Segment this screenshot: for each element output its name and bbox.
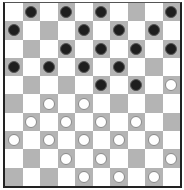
white-piece[interactable]	[130, 116, 142, 128]
board-square[interactable]	[163, 40, 181, 58]
black-piece[interactable]	[25, 6, 37, 18]
board-square[interactable]	[75, 3, 93, 21]
board-square[interactable]	[40, 113, 58, 131]
board-square[interactable]	[75, 113, 93, 131]
board-square[interactable]	[58, 149, 76, 167]
board-square[interactable]	[58, 40, 76, 58]
white-piece[interactable]	[95, 116, 107, 128]
board-square[interactable]	[23, 58, 41, 76]
board-square[interactable]	[128, 113, 146, 131]
board-square[interactable]	[23, 149, 41, 167]
black-piece[interactable]	[130, 79, 142, 91]
board-square[interactable]	[110, 40, 128, 58]
white-piece[interactable]	[165, 153, 177, 165]
board-square[interactable]	[58, 113, 76, 131]
black-piece[interactable]	[8, 61, 20, 73]
white-piece[interactable]	[148, 134, 160, 146]
white-piece[interactable]	[78, 98, 90, 110]
board-square[interactable]	[23, 76, 41, 94]
board-square[interactable]	[163, 113, 181, 131]
white-piece[interactable]	[43, 98, 55, 110]
black-piece[interactable]	[43, 61, 55, 73]
white-piece[interactable]	[165, 79, 177, 91]
board-square[interactable]	[145, 149, 163, 167]
black-piece[interactable]	[113, 61, 125, 73]
board-square[interactable]	[5, 168, 23, 186]
board-square[interactable]	[23, 3, 41, 21]
white-piece[interactable]	[43, 134, 55, 146]
board-square[interactable]	[128, 76, 146, 94]
white-piece[interactable]	[60, 153, 72, 165]
board-square[interactable]	[5, 113, 23, 131]
white-piece[interactable]	[95, 153, 107, 165]
white-piece[interactable]	[78, 134, 90, 146]
board-square[interactable]	[128, 58, 146, 76]
black-piece[interactable]	[113, 24, 125, 36]
board-square[interactable]	[93, 40, 111, 58]
board-square[interactable]	[23, 94, 41, 112]
board-square[interactable]	[110, 149, 128, 167]
board-square[interactable]	[40, 131, 58, 149]
board-square[interactable]	[58, 21, 76, 39]
board-square[interactable]	[75, 149, 93, 167]
board-square[interactable]	[40, 40, 58, 58]
board-square[interactable]	[145, 94, 163, 112]
board-square[interactable]	[110, 168, 128, 186]
board-square[interactable]	[23, 131, 41, 149]
board-square[interactable]	[5, 3, 23, 21]
board-square[interactable]	[93, 76, 111, 94]
white-piece[interactable]	[148, 171, 160, 183]
board-square[interactable]	[75, 131, 93, 149]
board-square[interactable]	[128, 3, 146, 21]
black-piece[interactable]	[78, 61, 90, 73]
board-square[interactable]	[5, 149, 23, 167]
board-square[interactable]	[23, 21, 41, 39]
board-square[interactable]	[40, 21, 58, 39]
board-square[interactable]	[75, 21, 93, 39]
board-square[interactable]	[5, 131, 23, 149]
board-square[interactable]	[5, 40, 23, 58]
board-square[interactable]	[75, 168, 93, 186]
white-piece[interactable]	[60, 116, 72, 128]
board-square[interactable]	[110, 131, 128, 149]
board-square[interactable]	[110, 21, 128, 39]
board-square[interactable]	[5, 76, 23, 94]
board-square[interactable]	[5, 58, 23, 76]
board-square[interactable]	[163, 58, 181, 76]
board-square[interactable]	[128, 131, 146, 149]
board-square[interactable]	[110, 58, 128, 76]
board-square[interactable]	[93, 21, 111, 39]
board-square[interactable]	[40, 3, 58, 21]
white-piece[interactable]	[25, 116, 37, 128]
board-square[interactable]	[110, 76, 128, 94]
board-square[interactable]	[163, 3, 181, 21]
board-square[interactable]	[58, 76, 76, 94]
board-square[interactable]	[75, 40, 93, 58]
board-square[interactable]	[5, 21, 23, 39]
board-square[interactable]	[58, 168, 76, 186]
board-square[interactable]	[163, 76, 181, 94]
board-square[interactable]	[145, 168, 163, 186]
board-square[interactable]	[145, 76, 163, 94]
board-square[interactable]	[93, 149, 111, 167]
board-square[interactable]	[128, 94, 146, 112]
board-square[interactable]	[40, 58, 58, 76]
board-square[interactable]	[40, 94, 58, 112]
board-square[interactable]	[93, 3, 111, 21]
board-square[interactable]	[128, 21, 146, 39]
board-square[interactable]	[163, 149, 181, 167]
board-square[interactable]	[23, 113, 41, 131]
board-square[interactable]	[40, 149, 58, 167]
board-square[interactable]	[145, 58, 163, 76]
white-piece[interactable]	[8, 134, 20, 146]
board-square[interactable]	[58, 94, 76, 112]
black-piece[interactable]	[130, 43, 142, 55]
board-square[interactable]	[110, 94, 128, 112]
black-piece[interactable]	[165, 43, 177, 55]
board-square[interactable]	[163, 131, 181, 149]
board-square[interactable]	[163, 168, 181, 186]
board-square[interactable]	[93, 58, 111, 76]
black-piece[interactable]	[78, 24, 90, 36]
board-square[interactable]	[145, 3, 163, 21]
board-square[interactable]	[75, 94, 93, 112]
